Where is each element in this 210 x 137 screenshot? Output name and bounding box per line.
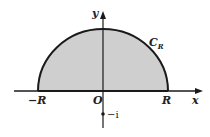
point-neg-i (101, 112, 105, 116)
origin-label: O (93, 94, 103, 107)
y-axis-arrow-icon (100, 11, 106, 19)
x-axis-label: x (191, 94, 199, 107)
neg-r-label: −R (28, 94, 46, 107)
y-axis-label: y (91, 7, 100, 20)
contour-diagram: y x CR O −R R −i (0, 0, 210, 137)
curve-label: CR (149, 36, 164, 51)
point-label: −i (107, 109, 119, 120)
pos-r-label: R (161, 94, 171, 107)
